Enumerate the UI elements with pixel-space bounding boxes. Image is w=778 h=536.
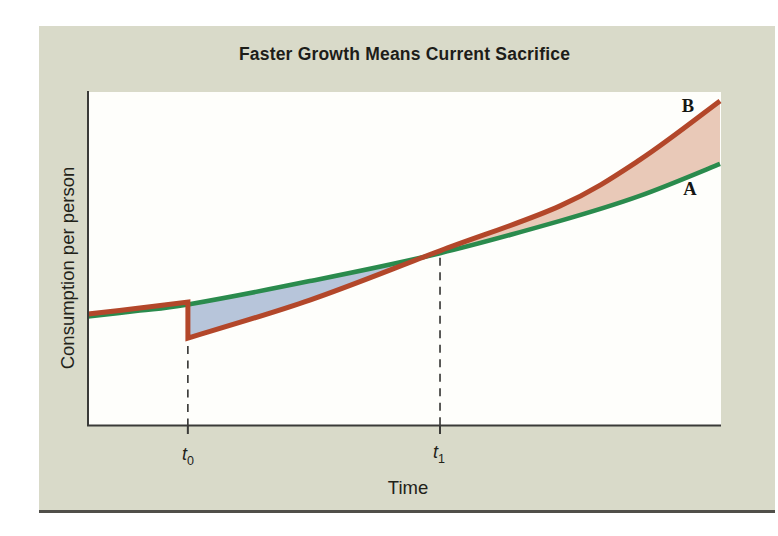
future-gain-region <box>440 101 720 252</box>
y-axis-label: Consumption per person <box>57 167 79 370</box>
axes <box>87 91 721 427</box>
chart-svg <box>0 0 778 536</box>
curve-label-B: B <box>682 96 694 117</box>
x-tick-label-t0: t0 <box>182 444 194 468</box>
x-axis-label: Time <box>388 477 428 499</box>
curve-B <box>88 101 720 338</box>
t1-sub: 1 <box>438 452 445 466</box>
chart-title: Faster Growth Means Current Sacrifice <box>88 44 721 65</box>
t0-sub: 0 <box>187 454 194 468</box>
x-tick-label-t1: t1 <box>433 442 445 466</box>
figure: Faster Growth Means Current Sacrifice Co… <box>0 0 778 536</box>
curve-label-A: A <box>683 179 696 200</box>
